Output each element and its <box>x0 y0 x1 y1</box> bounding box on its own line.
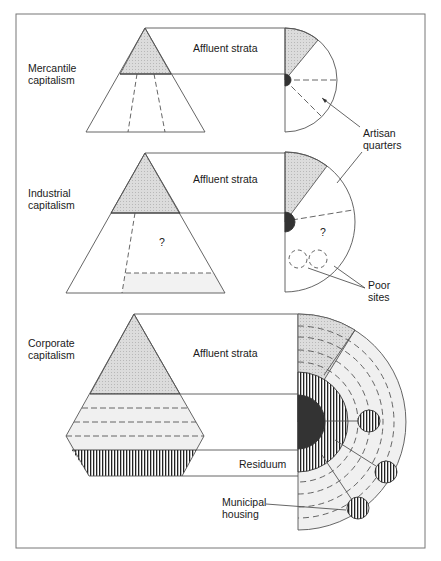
unknown-marker-sector: ? <box>320 226 326 238</box>
panel-label-industrial-1: Industrial <box>28 187 71 199</box>
panel-label-mercantile-2: capitalism <box>28 74 75 86</box>
municipal-estate <box>358 410 380 432</box>
affluent-apex <box>120 28 171 74</box>
unknown-marker-pyramid: ? <box>159 236 165 248</box>
annotation-municipal-2: housing <box>222 508 259 520</box>
strata-label-industrial: Affluent strata <box>193 173 258 185</box>
annotation-artisan-2: quarters <box>363 139 402 151</box>
panel-label-corporate-2: capitalism <box>28 349 75 361</box>
cbd-core <box>285 212 295 232</box>
annotation-municipal-1: Municipal <box>222 496 266 508</box>
cbd-core <box>285 74 291 86</box>
poor-site <box>309 250 327 268</box>
panel-label-industrial-2: capitalism <box>28 199 75 211</box>
panel-label-corporate-1: Corporate <box>28 337 75 349</box>
strata-label-corporate: Affluent strata <box>193 347 258 359</box>
municipal-estate <box>375 461 397 483</box>
annotation-artisan-1: Artisan <box>363 127 396 139</box>
panel-label-mercantile-1: Mercantile <box>28 62 77 74</box>
poor-site <box>289 250 307 268</box>
annotation-poor-1: Poor <box>368 279 391 291</box>
diagram-canvas: Mercantile capitalism Affluent strata Ar… <box>0 0 441 561</box>
municipal-estate <box>347 497 369 519</box>
strata-label-mercantile: Affluent strata <box>193 42 258 54</box>
residuum-label: Residuum <box>239 458 287 470</box>
annotation-poor-2: sites <box>368 291 390 303</box>
